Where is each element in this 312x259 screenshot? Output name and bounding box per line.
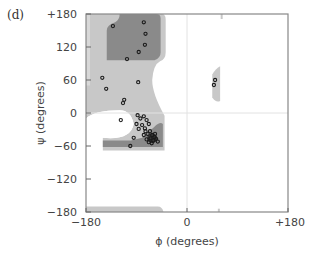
y-tick-label: −120 xyxy=(47,173,77,186)
y-tick-label: 0 xyxy=(70,107,77,120)
x-tick-label: 0 xyxy=(162,216,212,229)
y-axis-label: ψ (degrees) xyxy=(34,81,47,145)
y-tick-label: 60 xyxy=(63,74,77,87)
x-tick-label: +180 xyxy=(265,216,312,229)
y-tick-label: 120 xyxy=(56,41,77,54)
y-tick-label: +180 xyxy=(47,8,77,21)
x-tick-label: −180 xyxy=(61,216,111,229)
y-tick-label: −60 xyxy=(54,140,77,153)
x-axis-label: ϕ (degrees) xyxy=(155,235,219,248)
